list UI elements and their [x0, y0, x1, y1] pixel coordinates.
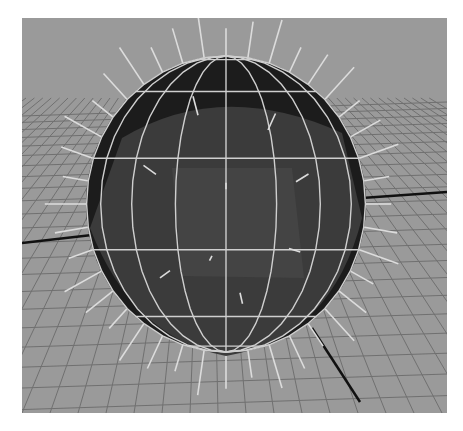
3d-viewport[interactable] [22, 18, 447, 413]
